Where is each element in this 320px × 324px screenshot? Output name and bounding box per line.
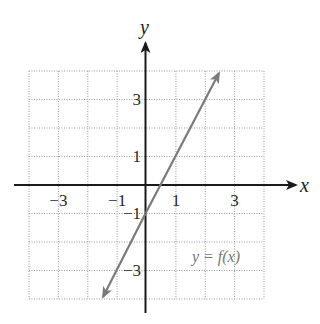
y-tick-label: 3 (133, 90, 142, 109)
x-tick-label: 3 (230, 191, 239, 210)
y-tick-label: 1 (133, 147, 142, 166)
y-axis-label: y (138, 16, 149, 39)
x-axis-label: x (299, 174, 309, 196)
function-line (103, 214, 146, 298)
x-tick-label: 1 (172, 191, 181, 210)
y-tick-label: −3 (123, 261, 141, 280)
y-tick-label: −1 (123, 204, 141, 223)
x-tick-label: −3 (49, 191, 67, 210)
function-label: y = f(x) (190, 248, 240, 266)
function-line (146, 73, 220, 214)
chart: x y −3 −1 1 3 3 1 −1 −3 y = f(x) (0, 0, 320, 324)
